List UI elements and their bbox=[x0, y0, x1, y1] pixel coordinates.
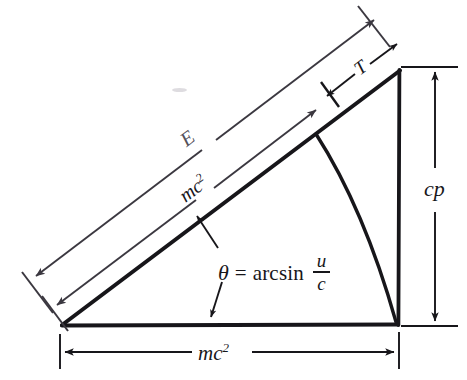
energy-momentum-triangle-diagram bbox=[0, 0, 467, 380]
dimension-mc2-line-lower bbox=[57, 200, 196, 305]
equals-sign: = bbox=[234, 263, 248, 284]
label-angle-equation: θ = arcsin u c bbox=[218, 252, 330, 294]
theta-arrow-to-hypotenuse bbox=[197, 216, 218, 248]
dimension-E bbox=[22, 6, 390, 313]
triangle-base-line bbox=[62, 325, 398, 326]
arcsin-text: arcsin bbox=[253, 263, 304, 284]
dimension-T-line-left bbox=[327, 74, 355, 96]
theta-symbol: θ bbox=[218, 262, 229, 284]
scan-artifact-speck bbox=[172, 88, 187, 92]
dimension-E-left-tick bbox=[22, 272, 53, 313]
dimension-mc2-left-tick bbox=[42, 296, 68, 331]
dimension-mc2-base bbox=[60, 332, 399, 369]
dimension-mc2-line-upper bbox=[214, 110, 316, 188]
label-rest-energy-base-text: mc bbox=[198, 341, 223, 365]
label-momentum: cp bbox=[424, 178, 445, 200]
dimension-E-right-tick bbox=[358, 6, 390, 47]
fraction-denominator: c bbox=[314, 274, 328, 293]
fraction-numerator: u bbox=[314, 251, 330, 270]
triangle-vertical-leg-line bbox=[398, 70, 399, 325]
dimension-T-line-right bbox=[370, 44, 397, 64]
label-rest-energy-base: mc2 bbox=[198, 341, 229, 364]
dimension-E-line-upper bbox=[216, 20, 374, 140]
figure-canvas: E mc2 T cp mc2 θ = arcsin u c bbox=[0, 0, 467, 380]
velocity-ratio-fraction: u c bbox=[313, 251, 330, 293]
label-rest-energy-base-exponent: 2 bbox=[223, 340, 230, 355]
